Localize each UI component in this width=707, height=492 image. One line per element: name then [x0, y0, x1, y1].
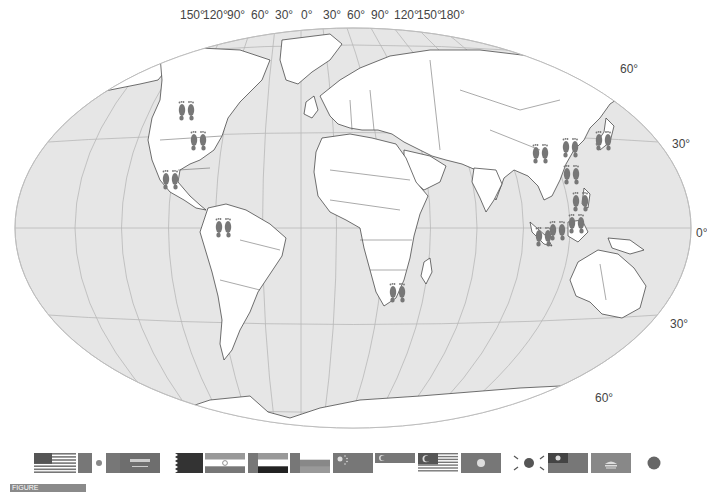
flag-saudi-arabia-icon: [120, 453, 160, 473]
flag-uae-icon: [248, 453, 288, 473]
flag-qatar-icon: [163, 453, 203, 473]
latitude-label: 0°: [696, 226, 707, 240]
flag-china-icon: [333, 453, 373, 473]
flag-taiwan-icon: [548, 453, 588, 473]
flag-mexico-icon: [78, 453, 122, 473]
flag-india-icon: [205, 453, 245, 473]
latitude-label: 30°: [670, 317, 688, 331]
world-map: [0, 0, 707, 445]
latitude-label: 30°: [672, 137, 690, 151]
flag-hong-kong-icon: [461, 453, 501, 473]
flag-singapore-icon: [375, 453, 415, 473]
flag-south-korea-icon: [510, 453, 548, 473]
flags-row: [0, 453, 707, 475]
longitude-label: 60°: [347, 8, 365, 22]
longitude-label: 150°: [180, 8, 205, 22]
longitude-label: 90°: [371, 8, 389, 22]
flag-malaysia-icon: [418, 453, 458, 473]
longitude-label: 150°: [417, 8, 442, 22]
flag-oman-icon: [290, 453, 330, 473]
longitude-label: 0°: [301, 8, 312, 22]
flag-japan-icon: [646, 453, 662, 473]
latitude-label: 60°: [620, 62, 638, 76]
flag-macau-icon: [591, 453, 631, 473]
latitude-label: 60°: [595, 391, 613, 405]
longitude-label: 180°: [440, 8, 465, 22]
longitude-label: 120°: [394, 8, 419, 22]
flag-united-states-icon: [34, 453, 76, 473]
figure-caption: FIGURE: [0, 484, 707, 492]
longitude-labels: 150° 120° 90° 60° 30° 0° 30° 60° 90° 120…: [0, 8, 707, 24]
figure-badge: FIGURE: [10, 484, 86, 492]
longitude-label: 90°: [227, 8, 245, 22]
longitude-label: 30°: [275, 8, 293, 22]
longitude-label: 120°: [203, 8, 228, 22]
longitude-label: 60°: [251, 8, 269, 22]
longitude-label: 30°: [323, 8, 341, 22]
